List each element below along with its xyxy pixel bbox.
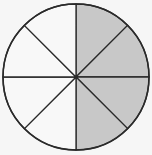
center-point [74,75,77,78]
fraction-circle-diagram [0,0,152,155]
circle-divided-into-eighths [0,0,152,155]
